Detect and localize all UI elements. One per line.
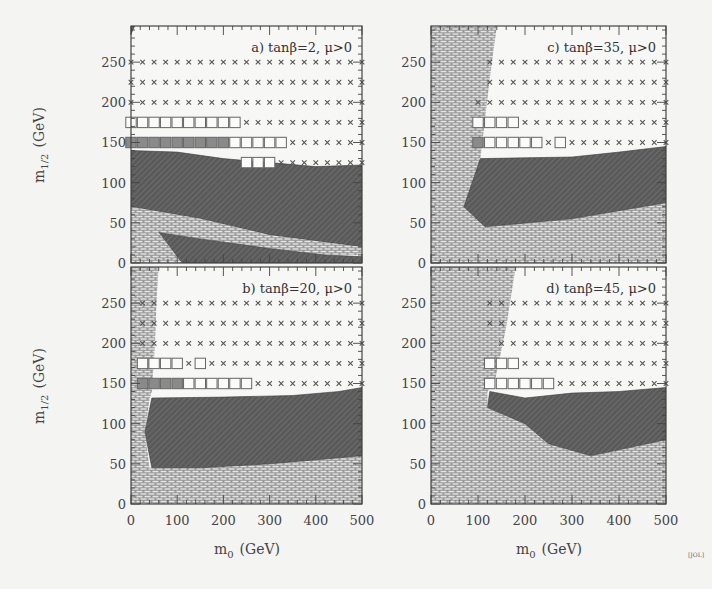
open-square-marker — [485, 378, 495, 388]
y-tick-label: 0 — [118, 497, 126, 512]
y-tick-label: 250 — [101, 55, 126, 70]
y-tick-label: 150 — [101, 376, 126, 391]
open-square-marker — [218, 117, 228, 127]
filled-square-marker — [149, 137, 159, 147]
open-square-marker — [253, 157, 263, 167]
open-square-marker — [508, 137, 518, 147]
y-axis-label: m1/2(GeV) — [31, 107, 50, 183]
filled-square-marker — [172, 378, 182, 388]
hatched-excluded-region — [145, 388, 362, 468]
susy-parameter-scan-figure: 050100150200250a) tanβ=2, μ>005010015020… — [0, 0, 712, 589]
open-square-marker — [496, 137, 506, 147]
open-square-marker — [195, 358, 205, 368]
open-square-marker — [160, 358, 170, 368]
y-tick-label: 50 — [109, 216, 126, 231]
panel-title: d) tanβ=45, μ>0 — [546, 281, 656, 296]
y-tick-label: 150 — [401, 376, 426, 391]
open-square-marker — [149, 117, 159, 127]
open-square-marker — [264, 137, 274, 147]
filled-square-marker — [160, 137, 170, 147]
y-tick-label: 250 — [101, 296, 126, 311]
open-square-marker — [230, 117, 240, 127]
x-tick-label: 300 — [560, 513, 585, 528]
open-square-marker — [508, 358, 518, 368]
x-tick-label: 500 — [654, 513, 679, 528]
open-square-marker — [195, 117, 205, 127]
x-tick-label: 200 — [513, 513, 538, 528]
open-square-marker — [520, 378, 530, 388]
y-tick-label: 50 — [409, 216, 426, 231]
panel-title: b) tanβ=20, μ>0 — [242, 281, 352, 296]
panel-title: c) tanβ=35, μ>0 — [547, 40, 656, 55]
open-square-marker — [241, 137, 251, 147]
filled-square-marker — [207, 137, 217, 147]
open-square-marker — [485, 358, 495, 368]
y-tick-label: 200 — [401, 336, 426, 351]
open-square-marker — [543, 378, 553, 388]
filled-square-marker — [218, 137, 228, 147]
open-square-marker — [253, 137, 263, 147]
panel-c: 050100150200250c) tanβ=35, μ>0 — [401, 26, 668, 271]
open-square-marker — [137, 117, 147, 127]
open-square-marker — [207, 378, 217, 388]
open-square-marker — [532, 378, 542, 388]
y-tick-label: 100 — [101, 176, 126, 191]
x-tick-label: 400 — [303, 513, 328, 528]
filled-square-marker — [160, 378, 170, 388]
y-tick-label: 150 — [101, 135, 126, 150]
y-tick-label: 250 — [401, 296, 426, 311]
open-square-marker — [195, 378, 205, 388]
open-square-marker — [218, 378, 228, 388]
open-square-marker — [137, 358, 147, 368]
x-axis-label: m0(GeV) — [516, 541, 582, 560]
y-tick-label: 200 — [101, 336, 126, 351]
open-square-marker — [207, 117, 217, 127]
filled-square-marker — [184, 137, 194, 147]
filled-square-marker — [195, 137, 205, 147]
open-square-marker — [485, 117, 495, 127]
x-tick-label: 100 — [466, 513, 491, 528]
y-tick-label: 0 — [418, 497, 426, 512]
open-square-marker — [496, 117, 506, 127]
y-tick-label: 100 — [401, 417, 426, 432]
open-square-marker — [555, 137, 565, 147]
y-tick-label: 150 — [401, 135, 426, 150]
y-tick-label: 50 — [409, 457, 426, 472]
panel-a: 050100150200250a) tanβ=2, μ>0 — [101, 26, 364, 271]
y-tick-label: 100 — [401, 176, 426, 191]
panel-title: a) tanβ=2, μ>0 — [251, 40, 352, 55]
x-tick-label: 0 — [127, 513, 135, 528]
open-square-marker — [230, 378, 240, 388]
open-square-marker — [276, 137, 286, 147]
x-tick-label: 200 — [211, 513, 236, 528]
open-square-marker — [264, 157, 274, 167]
open-square-marker — [160, 117, 170, 127]
open-square-marker — [184, 378, 194, 388]
open-square-marker — [473, 117, 483, 127]
open-square-marker — [496, 358, 506, 368]
filled-square-marker — [172, 137, 182, 147]
x-tick-label: 400 — [607, 513, 632, 528]
filled-square-marker — [473, 137, 483, 147]
y-tick-label: 200 — [401, 95, 426, 110]
y-tick-label: 100 — [101, 417, 126, 432]
open-square-marker — [508, 117, 518, 127]
x-tick-label: 0 — [427, 513, 435, 528]
credit-label: [JOL] — [688, 551, 704, 559]
y-tick-label: 0 — [118, 256, 126, 271]
open-square-marker — [508, 378, 518, 388]
x-tick-label: 300 — [257, 513, 282, 528]
filled-square-marker — [149, 378, 159, 388]
open-square-marker — [149, 358, 159, 368]
open-square-marker — [172, 358, 182, 368]
open-square-marker — [520, 137, 530, 147]
y-tick-label: 50 — [109, 457, 126, 472]
open-square-marker — [172, 117, 182, 127]
panel-b: 0501001502002500100200300400500b) tanβ=2… — [101, 267, 374, 528]
open-square-marker — [184, 117, 194, 127]
panel-d: 0501001502002500100200300400500d) tanβ=4… — [401, 267, 678, 528]
open-square-marker — [496, 378, 506, 388]
y-tick-label: 200 — [101, 95, 126, 110]
y-tick-label: 0 — [418, 256, 426, 271]
x-axis-label: m0(GeV) — [214, 541, 280, 560]
